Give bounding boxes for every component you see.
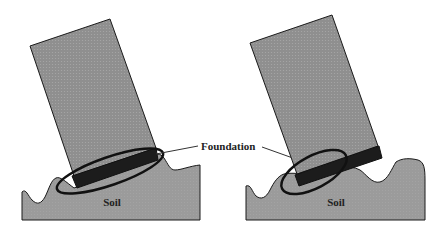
building-left — [30, 19, 156, 176]
soil-label-left: Soil — [103, 196, 121, 208]
building-right — [250, 15, 378, 174]
right-panel: Soil — [246, 15, 425, 220]
soil-label-right: Soil — [327, 196, 345, 208]
foundation-label: Foundation — [201, 140, 255, 152]
left-panel: Soil — [22, 19, 200, 220]
diagram-canvas: Soil Foundation Soil — [0, 0, 442, 234]
